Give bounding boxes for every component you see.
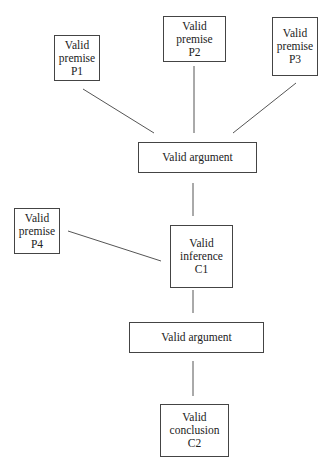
node-inference-c1: Valid inference C1 <box>170 225 233 288</box>
node-label-line: P1 <box>59 65 95 78</box>
node-label-line: P3 <box>277 53 313 66</box>
node-valid-argument-1: Valid argument <box>138 142 257 173</box>
node-premise-p4: Valid premise P4 <box>14 208 60 254</box>
edge-p1-a1 <box>83 89 154 133</box>
node-label-line: Valid <box>19 212 55 225</box>
node-label-line: premise <box>19 225 55 238</box>
node-label-line: Valid <box>277 27 313 40</box>
node-label-line: premise <box>277 40 313 53</box>
node-premise-p3: Valid premise P3 <box>272 17 318 76</box>
node-label-line: premise <box>176 33 212 46</box>
node-label-line: C1 <box>180 263 223 276</box>
node-label-line: Valid <box>59 39 95 52</box>
node-label-line: Valid <box>180 237 223 250</box>
node-label-line: C2 <box>170 437 220 450</box>
node-premise-p2: Valid premise P2 <box>163 16 226 62</box>
node-valid-argument-2: Valid argument <box>129 322 264 353</box>
node-conclusion-c2: Valid conclusion C2 <box>160 404 229 457</box>
node-label-line: P4 <box>19 238 55 251</box>
edge-p4-c1 <box>68 231 161 261</box>
node-label-line: P2 <box>176 46 212 59</box>
node-label-line: inference <box>180 250 223 263</box>
node-premise-p1: Valid premise P1 <box>54 35 100 81</box>
node-label-line: conclusion <box>170 424 220 437</box>
node-label-line: Valid <box>176 20 212 33</box>
node-label: Valid argument <box>161 331 231 344</box>
edge-p3-a1 <box>233 83 296 133</box>
node-label-line: premise <box>59 52 95 65</box>
node-label: Valid argument <box>162 151 232 164</box>
node-label-line: Valid <box>170 411 220 424</box>
